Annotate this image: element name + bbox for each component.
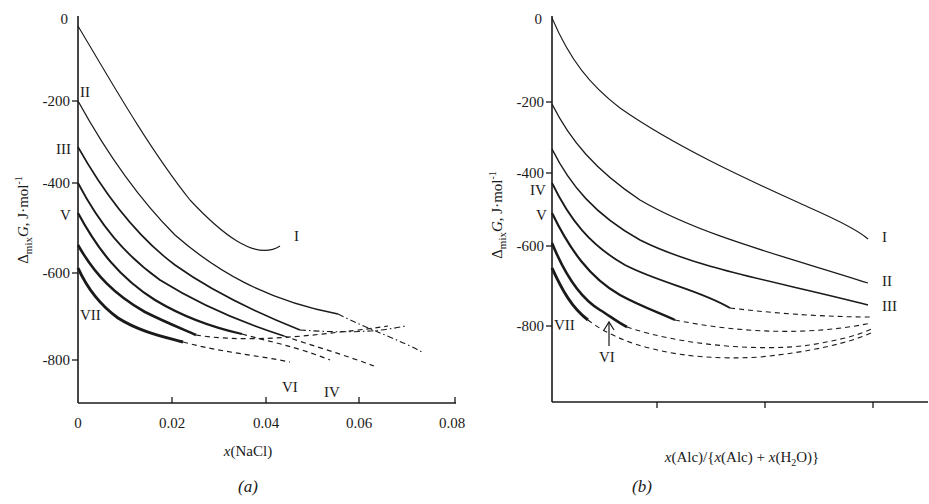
panel-b-label-V: V [536, 207, 547, 223]
panel-a: 0 -200 -400 -600 -800 0 0.02 0.04 0.06 0… [13, 11, 465, 496]
panel-a-curve-II-ext [338, 314, 422, 352]
panel-b-ytick-400: -400 [517, 165, 545, 181]
panel-a-ytick-600: -600 [43, 265, 71, 281]
panel-a-x-label: x(NaCl) [223, 443, 272, 460]
panel-a-xtick-002: 0.02 [159, 415, 185, 431]
panel-a-y-ticks [72, 101, 78, 360]
panel-b-curve-II [552, 104, 868, 283]
panel-a-xtick-004: 0.04 [253, 415, 280, 431]
panel-a-curve-VII [78, 268, 183, 342]
panel-b-y-label: ΔmixG, J·mol-1 [487, 171, 508, 259]
panel-b-label-I: I [882, 229, 887, 245]
panel-b-label-III: III [882, 298, 897, 314]
panel-b-curves [552, 18, 873, 358]
panel-a-curves [78, 26, 422, 366]
panel-a-curve-V [78, 213, 242, 334]
panel-b-x-label: x(Alc)/{x(Alc) + x(H2O)} [664, 449, 820, 468]
panel-b-label-II: II [882, 273, 892, 289]
panel-a-ytick-400: -400 [43, 175, 71, 191]
panel-b-ytick-600: -600 [517, 238, 545, 254]
panel-b-curve-VII-ext [588, 320, 873, 358]
panel-b-label-VI: VI [599, 349, 615, 365]
panel-b: 0 -200 -400 -600 -800 x(Alc)/{x(Alc) + x… [487, 11, 928, 496]
panel-b-curve-V-ext [675, 320, 871, 331]
panel-b-label-VII: VII [554, 317, 575, 333]
panel-a-curve-I [78, 26, 280, 250]
panel-b-x-ticks [657, 402, 873, 408]
panel-b-ytick-200: -200 [517, 94, 545, 110]
panel-a-label: (a) [238, 477, 258, 496]
panel-a-label-VI: VI [282, 379, 298, 395]
panel-a-ytick-200: -200 [43, 93, 71, 109]
panel-b-curve-VI [552, 243, 627, 327]
panel-a-curve-VII-ext [183, 342, 290, 362]
panel-b-curve-IV-ext [730, 308, 871, 317]
panel-a-ytick-0: 0 [61, 11, 69, 27]
panel-a-label-II: II [80, 84, 90, 100]
figure: 0 -200 -400 -600 -800 0 0.02 0.04 0.06 0… [0, 0, 929, 504]
panel-b-label: (b) [632, 477, 652, 496]
panel-a-xtick-0: 0 [74, 415, 82, 431]
panel-a-curve-VI-ext [196, 326, 388, 339]
panel-b-label-IV: IV [530, 182, 546, 198]
panel-a-xtick-006: 0.06 [346, 415, 373, 431]
panel-a-y-label: ΔmixG, J·mol-1 [13, 176, 34, 264]
panel-b-ytick-0: 0 [535, 11, 543, 27]
panel-a-curve-IV-ext [284, 336, 374, 366]
panel-a-xtick-008: 0.08 [439, 415, 465, 431]
panel-a-label-IV: IV [324, 384, 340, 400]
panel-b-y-ticks [546, 102, 552, 326]
panel-b-ytick-800: -800 [517, 318, 545, 334]
panel-a-ytick-800: -800 [43, 352, 71, 368]
panel-b-curve-I [552, 18, 868, 239]
panel-a-label-V: V [60, 207, 71, 223]
panel-a-label-VII: VII [80, 307, 101, 323]
panel-b-vi-arrow [604, 322, 614, 346]
panel-a-x-ticks [172, 397, 455, 403]
panel-a-label-I: I [294, 228, 299, 244]
panel-a-label-III: III [56, 141, 71, 157]
panel-a-curve-III [78, 147, 300, 330]
